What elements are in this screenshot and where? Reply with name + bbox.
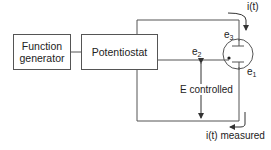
potential-label: E controlled	[179, 84, 234, 95]
function-generator-block: Function generator	[13, 34, 71, 70]
e1-label: e1	[247, 66, 256, 77]
e2-label: e2	[192, 46, 201, 57]
function-generator-label: Function generator	[14, 40, 70, 64]
potentiostat-label: Potentiostat	[92, 46, 147, 58]
e3-label: e3	[224, 29, 233, 40]
current-in-label: i(t)	[247, 1, 259, 12]
current-in-arrow	[228, 13, 246, 30]
reference-electrode-tip	[227, 56, 230, 59]
electrochemical-cell	[223, 39, 253, 69]
diagram-wires	[0, 0, 271, 150]
current-out-arrow	[230, 112, 245, 127]
potentiostat-block: Potentiostat	[81, 34, 158, 70]
current-out-label: i(t) measured	[206, 130, 265, 141]
